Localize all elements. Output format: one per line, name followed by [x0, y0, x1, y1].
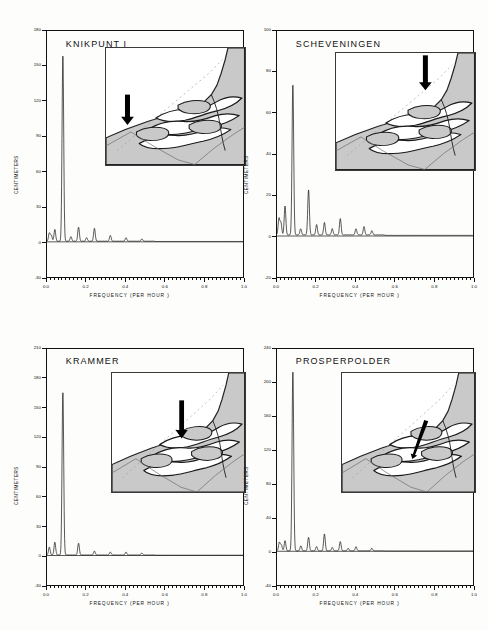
x-minor-tickmark [133, 586, 134, 588]
x-tickmark [276, 586, 277, 590]
delta-map [106, 48, 245, 165]
y-tick-label: 20 [250, 192, 271, 197]
x-minor-tickmark [168, 586, 169, 588]
y-tickmark [272, 450, 276, 451]
x-minor-tickmark [97, 278, 98, 280]
y-tickmark [272, 348, 276, 349]
x-minor-tickmark [208, 278, 209, 280]
y-tick-label: 0 [250, 234, 271, 239]
x-minor-tickmark [359, 586, 360, 588]
x-minor-tickmark [410, 586, 411, 588]
x-minor-tickmark [176, 278, 177, 280]
x-tick-label: 0.0 [264, 284, 288, 289]
x-minor-tickmark [212, 586, 213, 588]
x-axis-label-krammer: FREQUENCY (PER HOUR ) [90, 601, 170, 606]
delta-map [112, 373, 245, 492]
x-minor-tickmark [291, 586, 292, 588]
x-minor-tickmark [307, 586, 308, 588]
x-minor-tickmark [371, 586, 372, 588]
panel-title-prosperpolder: PROSPERPOLDER [296, 356, 391, 366]
x-minor-tickmark [117, 586, 118, 588]
y-tick-label: 160 [250, 413, 271, 418]
x-minor-tickmark [137, 278, 138, 280]
x-tick-label: 0.2 [304, 284, 328, 289]
x-minor-tickmark [149, 278, 150, 280]
inset-map-prosperpolder [341, 372, 476, 493]
x-minor-tickmark [236, 278, 237, 280]
x-minor-tickmark [319, 278, 320, 280]
y-axis-label-krammer: CENTIMETERS [14, 466, 19, 505]
y-tickmark [42, 437, 46, 438]
x-axis-label-knikpunt-i: FREQUENCY (PER HOUR ) [90, 293, 170, 298]
x-minor-tickmark [157, 278, 158, 280]
x-minor-tickmark [73, 586, 74, 588]
x-tickmark [164, 278, 165, 282]
x-minor-tickmark [299, 586, 300, 588]
x-tickmark [355, 586, 356, 590]
x-tickmark [46, 586, 47, 590]
x-minor-tickmark [359, 278, 360, 280]
x-minor-tickmark [371, 278, 372, 280]
x-tick-label: 0.0 [34, 284, 58, 289]
x-minor-tickmark [101, 278, 102, 280]
x-minor-tickmark [50, 278, 51, 280]
x-minor-tickmark [280, 586, 281, 588]
x-minor-tickmark [351, 278, 352, 280]
x-minor-tickmark [216, 586, 217, 588]
x-minor-tickmark [208, 586, 209, 588]
y-tick-label: 60 [250, 110, 271, 115]
x-minor-tickmark [458, 586, 459, 588]
x-minor-tickmark [220, 586, 221, 588]
y-tick-label: 180 [20, 27, 41, 32]
x-tick-label: 0.2 [74, 284, 98, 289]
x-minor-tickmark [212, 278, 213, 280]
y-tickmark [42, 407, 46, 408]
x-minor-tickmark [450, 586, 451, 588]
y-tick-label: 120 [250, 447, 271, 452]
x-minor-tickmark [65, 278, 66, 280]
panel-prosperpolder: PROSPERPOLDER24020016012080400-400.00.20… [276, 348, 474, 586]
y-tick-label: 0 [20, 240, 41, 245]
x-minor-tickmark [58, 586, 59, 588]
x-minor-tickmark [390, 278, 391, 280]
x-minor-tickmark [200, 278, 201, 280]
x-minor-tickmark [466, 586, 467, 588]
y-axis-label-prosperpolder: CENTIMETERS [244, 466, 249, 505]
x-minor-tickmark [295, 586, 296, 588]
x-tickmark [394, 278, 395, 282]
y-tickmark [272, 236, 276, 237]
y-tickmark [42, 171, 46, 172]
x-minor-tickmark [188, 278, 189, 280]
x-minor-tickmark [402, 278, 403, 280]
y-tick-label: 0 [20, 553, 41, 558]
x-minor-tickmark [446, 278, 447, 280]
x-minor-tickmark [327, 278, 328, 280]
x-minor-tickmark [97, 586, 98, 588]
x-minor-tickmark [180, 586, 181, 588]
y-tickmark [272, 195, 276, 196]
x-tickmark [474, 586, 475, 590]
x-minor-tickmark [406, 278, 407, 280]
y-tick-label: 30 [20, 524, 41, 529]
x-minor-tickmark [284, 278, 285, 280]
x-minor-tickmark [311, 586, 312, 588]
x-minor-tickmark [69, 278, 70, 280]
x-minor-tickmark [418, 278, 419, 280]
y-tickmark [272, 71, 276, 72]
x-minor-tickmark [450, 278, 451, 280]
panel-title-scheveningen: SCHEVENINGEN [296, 39, 381, 49]
y-tickmark [272, 112, 276, 113]
x-minor-tickmark [117, 278, 118, 280]
x-tickmark [85, 278, 86, 282]
delta-map [342, 373, 475, 492]
x-tickmark [204, 278, 205, 282]
y-tick-label: 180 [20, 375, 41, 380]
x-tickmark [355, 278, 356, 282]
x-minor-tickmark [426, 278, 427, 280]
x-tick-label: 0.0 [264, 592, 288, 597]
x-minor-tickmark [335, 586, 336, 588]
x-minor-tickmark [172, 586, 173, 588]
y-tick-label: 60 [20, 169, 41, 174]
x-minor-tickmark [180, 278, 181, 280]
x-minor-tickmark [383, 586, 384, 588]
